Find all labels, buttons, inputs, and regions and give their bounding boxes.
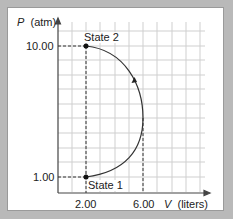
y-tick-1: 1.00	[33, 172, 54, 183]
x-axis-label: V (liters)	[164, 199, 208, 210]
y-axis-unit: (atm)	[30, 16, 56, 28]
y-tick-10: 10.00	[26, 41, 54, 52]
state-2-point	[84, 44, 89, 49]
y-axis-label: P (atm)	[17, 17, 56, 28]
axes	[56, 18, 211, 196]
x-tick-2: 2.00	[75, 199, 96, 210]
grid	[58, 22, 205, 192]
x-axis-symbol: V	[164, 198, 171, 210]
state-2-label: State 2	[84, 32, 119, 43]
state-1-label: State 1	[88, 180, 123, 191]
x-axis-unit: (liters)	[177, 198, 208, 210]
y-axis-symbol: P	[17, 16, 24, 28]
x-tick-6: 6.00	[133, 199, 154, 210]
direction-arrow-icon	[132, 77, 138, 83]
